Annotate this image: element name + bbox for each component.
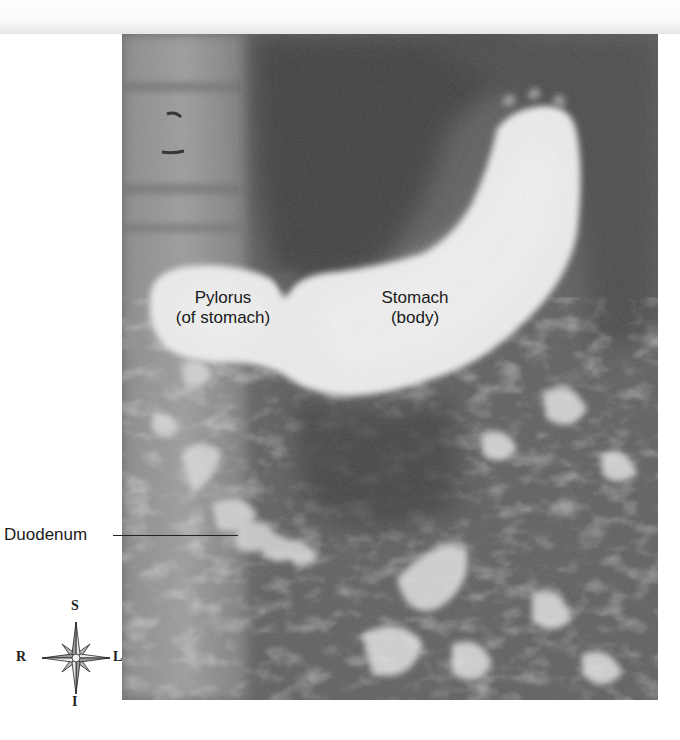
stomach-body-label: Stomach (body) — [370, 288, 460, 328]
compass-inferior-label: I — [72, 694, 77, 710]
compass-star-icon — [14, 598, 124, 708]
compass-rose: S I R L — [14, 598, 124, 708]
pylorus-label-line1: Pylorus — [168, 288, 278, 308]
compass-right-label: R — [16, 649, 26, 665]
compass-superior-label: S — [71, 598, 79, 614]
pylorus-label-line2: (of stomach) — [168, 308, 278, 328]
xray-image — [122, 34, 658, 700]
pylorus-label: Pylorus (of stomach) — [168, 288, 278, 328]
stomach-label-line2: (body) — [370, 308, 460, 328]
page-top-edge — [0, 0, 680, 34]
duodenum-leader-line — [113, 535, 238, 536]
compass-left-label: L — [113, 649, 122, 665]
duodenum-label: Duodenum — [4, 525, 87, 545]
stomach-label-line1: Stomach — [370, 288, 460, 308]
